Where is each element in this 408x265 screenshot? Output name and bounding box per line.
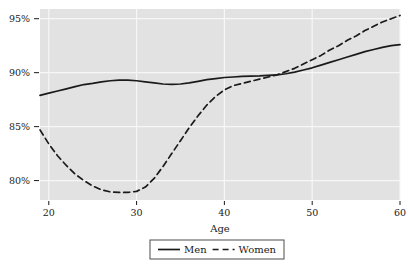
x-tick-label: 60 (394, 207, 406, 218)
chart-container: 2030405060 80%85%90%95% Age MenWomen (0, 0, 408, 265)
x-axis-ticks (49, 201, 400, 205)
y-tick-label: 80% (9, 175, 30, 186)
y-tick-label: 90% (9, 67, 30, 78)
line-chart: 2030405060 80%85%90%95% Age MenWomen (0, 0, 408, 265)
y-axis-tick-labels: 80%85%90%95% (9, 13, 30, 186)
x-tick-label: 50 (306, 207, 318, 218)
chart-legend: MenWomen (150, 240, 284, 259)
legend-label-men: Men (184, 244, 207, 255)
x-tick-label: 30 (131, 207, 143, 218)
x-axis-tick-labels: 2030405060 (43, 207, 406, 218)
y-tick-label: 85% (9, 121, 30, 132)
x-axis-title: Age (209, 223, 230, 234)
legend-label-women: Women (239, 244, 277, 255)
y-tick-label: 95% (9, 13, 30, 24)
x-tick-label: 20 (43, 207, 55, 218)
y-axis-ticks (34, 19, 39, 181)
x-tick-label: 40 (218, 207, 230, 218)
plot-background (40, 9, 400, 200)
